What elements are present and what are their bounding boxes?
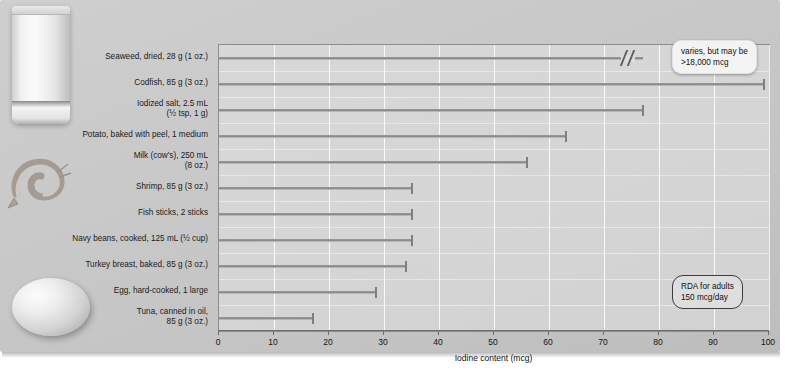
category-label-9: Egg, hard-cooked, 1 large: [0, 286, 208, 296]
category-label-7: Navy beans, cooked, 125 mL (½ cup): [0, 234, 208, 244]
bar-10: [219, 317, 313, 320]
row-separator: [219, 123, 769, 124]
row-separator: [219, 149, 769, 150]
x-tick-100: [768, 330, 769, 335]
x-tick-label-80: 80: [643, 337, 673, 347]
row-separator: [219, 227, 769, 228]
category-label-1: Codfish, 85 g (3 oz.): [0, 78, 208, 88]
x-axis-title: Iodine content (mcg): [218, 353, 769, 363]
x-tick-50: [493, 330, 494, 335]
gridline-80: [659, 45, 660, 331]
bar-1: [219, 83, 764, 86]
category-label-10: Tuna, canned in oil, 85 g (3 oz.): [0, 307, 208, 327]
bar-0: [219, 57, 643, 60]
gridline-60: [549, 45, 550, 331]
category-label-2: Iodized salt, 2.5 mL (½ tsp, 1 g): [0, 99, 208, 119]
bar-4: [219, 161, 527, 164]
x-tick-30: [383, 330, 384, 335]
x-tick-20: [328, 330, 329, 335]
bar-2: [219, 109, 643, 112]
row-separator: [219, 201, 769, 202]
category-label-5: Shrimp, 85 g (3 oz.): [0, 182, 208, 192]
x-tick-10: [273, 330, 274, 335]
iodine-content-figure: Seaweed, dried, 28 g (1 oz.)Codfish, 85 …: [0, 0, 786, 387]
bar-8: [219, 265, 406, 268]
bar-6: [219, 213, 412, 216]
x-tick-0: [218, 330, 219, 335]
rda-callout: RDA for adults 150 mcg/day: [672, 275, 743, 309]
bar-end-cap: [642, 105, 644, 116]
x-tick-label-30: 30: [368, 337, 398, 347]
bar-end-cap: [411, 209, 413, 220]
bar-end-cap: [411, 183, 413, 194]
bar-5: [219, 187, 412, 190]
bar-9: [219, 291, 376, 294]
x-tick-90: [713, 330, 714, 335]
x-tick-label-90: 90: [698, 337, 728, 347]
x-tick-60: [548, 330, 549, 335]
bar-end-cap: [565, 131, 567, 142]
gridline-40: [439, 45, 440, 331]
x-tick-label-50: 50: [478, 337, 508, 347]
category-label-4: Milk (cow's), 250 mL (8 oz.): [0, 151, 208, 171]
axis-break-mask: [621, 55, 635, 62]
bar-end-cap: [405, 261, 407, 272]
bar-end-cap: [763, 79, 765, 90]
x-tick-label-40: 40: [423, 337, 453, 347]
category-label-3: Potato, baked with peel, 1 medium: [0, 130, 208, 140]
category-labels: Seaweed, dried, 28 g (1 oz.)Codfish, 85 …: [0, 44, 214, 330]
x-tick-80: [658, 330, 659, 335]
bar-7: [219, 239, 412, 242]
gridline-100: [769, 45, 770, 331]
x-tick-label-20: 20: [313, 337, 343, 347]
bar-end-cap: [312, 313, 314, 324]
bar-end-cap: [411, 235, 413, 246]
x-tick-40: [438, 330, 439, 335]
row-separator: [219, 253, 769, 254]
category-label-6: Fish sticks, 2 sticks: [0, 208, 208, 218]
x-tick-label-70: 70: [588, 337, 618, 347]
row-separator: [219, 97, 769, 98]
gridline-50: [494, 45, 495, 331]
x-tick-label-100: 100: [753, 337, 783, 347]
x-tick-label-60: 60: [533, 337, 563, 347]
x-tick-label-10: 10: [258, 337, 288, 347]
x-tick-70: [603, 330, 604, 335]
bar-3: [219, 135, 566, 138]
row-separator: [219, 175, 769, 176]
seaweed-callout: varies, but may be >18,000 mcg: [672, 40, 757, 74]
gridline-70: [604, 45, 605, 331]
category-label-0: Seaweed, dried, 28 g (1 oz.): [0, 52, 208, 62]
bar-end-cap: [526, 157, 528, 168]
x-tick-label-0: 0: [203, 337, 233, 347]
category-label-8: Turkey breast, baked, 85 g (3 oz.): [0, 260, 208, 270]
bar-end-cap: [375, 287, 377, 298]
